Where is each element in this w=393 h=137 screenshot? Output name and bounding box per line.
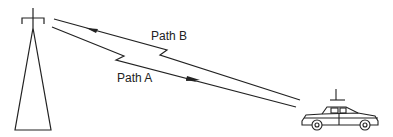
car-icon (302, 89, 378, 130)
path-b-arrowhead-icon (86, 28, 98, 33)
multipath-diagram: Path B Path A (0, 0, 393, 137)
antenna-tower-icon (15, 8, 51, 130)
path-b-label: Path B (151, 29, 187, 43)
path-a-arrowhead-icon-fill (186, 76, 200, 81)
path-a-label: Path A (117, 71, 152, 85)
